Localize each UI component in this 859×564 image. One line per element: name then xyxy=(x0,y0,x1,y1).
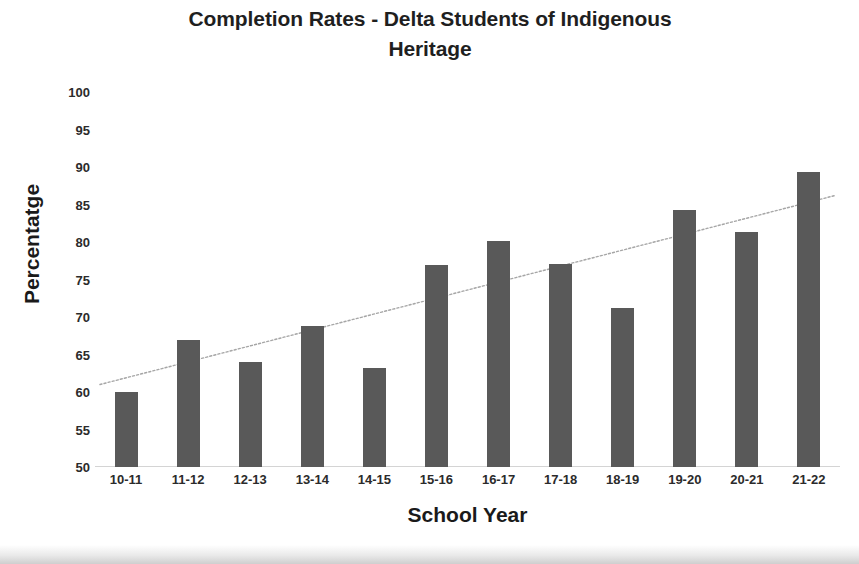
y-axis-tick-label: 85 xyxy=(56,197,90,212)
y-axis-tick-label: 65 xyxy=(56,347,90,362)
y-axis-tick-labels: 10095908580757065605550 xyxy=(50,0,90,564)
bar xyxy=(363,368,386,467)
bar xyxy=(611,308,634,467)
x-axis-title: School Year xyxy=(95,503,840,527)
bar xyxy=(239,362,262,467)
page-edge-shadow xyxy=(0,545,859,564)
chart-title-line-2: Heritage xyxy=(120,34,740,64)
y-axis-tick-label: 75 xyxy=(56,272,90,287)
y-axis-tick-label: 55 xyxy=(56,422,90,437)
bar xyxy=(115,392,138,467)
bar xyxy=(301,326,324,467)
x-axis-tick-label: 16-17 xyxy=(482,472,515,487)
x-axis-tick-label: 13-14 xyxy=(296,472,329,487)
x-axis-tick-label: 18-19 xyxy=(606,472,639,487)
x-axis-tick-label: 15-16 xyxy=(420,472,453,487)
bar xyxy=(797,172,820,467)
x-axis-tick-label: 14-15 xyxy=(358,472,391,487)
x-axis-tick-label: 10-11 xyxy=(110,472,143,487)
bar xyxy=(177,340,200,468)
x-axis-tick-label: 12-13 xyxy=(234,472,267,487)
chart-title: Completion Rates - Delta Students of Ind… xyxy=(120,4,740,64)
y-axis-tick-label: 95 xyxy=(56,122,90,137)
y-axis-tick-label: 80 xyxy=(56,235,90,250)
y-axis-tick-label: 50 xyxy=(56,460,90,475)
y-axis-tick-label: 100 xyxy=(56,85,90,100)
bar xyxy=(735,232,758,467)
x-axis-tick-label: 17-18 xyxy=(544,472,577,487)
trendline xyxy=(95,92,840,467)
plot-area xyxy=(95,92,840,467)
chart-container: Completion Rates - Delta Students of Ind… xyxy=(0,0,859,564)
x-axis-tick-label: 11-12 xyxy=(172,472,205,487)
bar xyxy=(487,241,510,468)
y-axis-tick-label: 60 xyxy=(56,385,90,400)
bar xyxy=(549,264,572,467)
y-axis-tick-label: 70 xyxy=(56,310,90,325)
y-axis-tick-label: 90 xyxy=(56,160,90,175)
bar xyxy=(673,210,696,467)
chart-title-line-1: Completion Rates - Delta Students of Ind… xyxy=(120,4,740,34)
x-axis-tick-label: 21-22 xyxy=(792,472,825,487)
x-axis-tick-label: 19-20 xyxy=(668,472,701,487)
y-axis-title: Percentatge xyxy=(20,174,44,314)
bar xyxy=(425,265,448,468)
x-axis-tick-label: 20-21 xyxy=(730,472,763,487)
